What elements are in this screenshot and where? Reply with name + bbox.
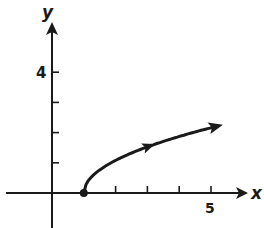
x-axis-label: x [250,183,263,203]
curve [84,127,214,193]
x-tick-label-5: 5 [205,200,215,216]
chart: y x 4 5 [0,0,264,228]
y-axis-label: y [42,2,54,22]
axis-ticks [52,72,211,193]
start-point-marker [80,189,88,197]
y-tick-label-4: 4 [36,64,46,82]
plot-area: y x 4 5 [0,0,264,228]
